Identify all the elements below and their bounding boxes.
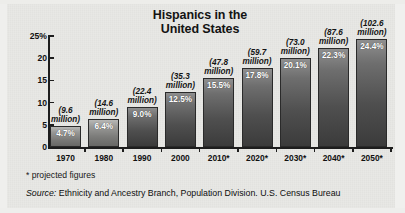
chart-title-line1: Hispanics in the — [153, 8, 247, 22]
x-axis-tick — [122, 148, 124, 152]
bar-1970: 4.7% — [50, 126, 81, 147]
annotation-line: million) — [274, 47, 317, 56]
x-axis-label: 1990 — [121, 153, 164, 163]
bar-1980: 6.4% — [88, 119, 119, 147]
y-axis-label: 5 — [7, 121, 47, 129]
x-axis-label: 2010* — [197, 153, 240, 163]
frame-edge-bottom — [0, 208, 405, 213]
x-axis-tick — [390, 148, 392, 152]
y-axis-label: 20 — [7, 54, 47, 62]
bar-1990: 9.0% — [127, 107, 158, 147]
x-axis-tick — [276, 148, 278, 152]
annotation-line: million) — [159, 81, 202, 90]
annotation-line: million) — [350, 28, 393, 37]
bar-2020: 17.8% — [242, 68, 273, 147]
bar-2010: 15.5% — [203, 78, 234, 147]
frame-edge-right — [395, 0, 405, 213]
annotation-line: (87.6 — [312, 28, 355, 37]
frame-edge-left — [0, 0, 7, 213]
annotation-line: (102.6 — [350, 19, 393, 28]
chart-figure: Hispanics in the United States * project… — [0, 0, 405, 213]
bar-value-label: 22.3% — [319, 51, 348, 60]
annotation-line: million) — [312, 37, 355, 46]
bar-value-label: 4.7% — [51, 129, 80, 138]
annotation-line: (14.6 — [82, 99, 125, 108]
x-axis-label: 2020* — [236, 153, 279, 163]
bar-population-annotation: (9.6million) — [44, 106, 87, 124]
bar-population-annotation: (102.6million) — [350, 19, 393, 37]
y-axis-tick — [48, 35, 54, 37]
x-axis-tick — [84, 148, 86, 152]
annotation-line: (73.0 — [274, 38, 317, 47]
source-text: Ethnicity and Ancestry Branch, Populatio… — [59, 188, 341, 198]
bar-value-label: 24.4% — [357, 42, 386, 51]
x-axis-tick — [161, 148, 163, 152]
bar-value-label: 17.8% — [243, 71, 272, 80]
x-axis-label: 2050* — [350, 153, 393, 163]
bar-2000: 12.5% — [165, 92, 196, 148]
frame-edge-top — [0, 0, 405, 4]
bar-value-label: 15.5% — [204, 81, 233, 90]
bar-population-annotation: (73.0million) — [274, 38, 317, 56]
bar-value-label: 20.1% — [281, 61, 310, 70]
x-axis-line — [48, 147, 393, 149]
y-axis-tick — [48, 80, 54, 82]
y-axis-tick — [48, 57, 54, 59]
x-axis-label: 1970 — [44, 153, 87, 163]
x-axis-tick — [314, 148, 316, 152]
annotation-line: (9.6 — [44, 106, 87, 115]
annotation-line: million) — [82, 108, 125, 117]
annotation-line: (22.4 — [121, 87, 164, 96]
bar-population-annotation: (14.6million) — [82, 99, 125, 117]
y-axis-label: 10 — [7, 99, 47, 107]
bar-value-label: 6.4% — [89, 122, 118, 131]
x-axis-tick — [199, 148, 201, 152]
y-axis-label: 25% — [7, 32, 47, 40]
bar-population-annotation: (87.6million) — [312, 28, 355, 46]
annotation-line: million) — [121, 96, 164, 105]
chart-title: Hispanics in the United States — [105, 9, 295, 36]
x-axis-label: 1980 — [82, 153, 125, 163]
annotation-line: million) — [197, 67, 240, 76]
x-axis-label: 2030* — [274, 153, 317, 163]
bar-2030: 20.1% — [280, 58, 311, 147]
y-axis-label: 0 — [7, 143, 47, 151]
y-axis-label: 15 — [7, 76, 47, 84]
x-axis-tick — [352, 148, 354, 152]
bar-population-annotation: (22.4million) — [121, 87, 164, 105]
bar-population-annotation: (35.3million) — [159, 72, 202, 90]
annotation-line: (59.7 — [236, 48, 279, 57]
chart-title-line2: United States — [105, 23, 295, 37]
x-axis-label: 2040* — [312, 153, 355, 163]
source-label: Source: — [26, 188, 56, 198]
bar-2040: 22.3% — [318, 48, 349, 147]
bar-population-annotation: (59.7million) — [236, 48, 279, 66]
source-note: Source: Ethnicity and Ancestry Branch, P… — [26, 188, 340, 198]
x-axis-label: 2000 — [159, 153, 202, 163]
bar-2050: 24.4% — [356, 39, 387, 147]
x-axis-tick — [237, 148, 239, 152]
y-axis-tick — [48, 102, 54, 104]
annotation-line: million) — [44, 115, 87, 124]
annotation-line: million) — [236, 57, 279, 66]
footnote-projected: * projected figures — [26, 170, 95, 180]
annotation-line: (47.8 — [197, 58, 240, 67]
bar-population-annotation: (47.8million) — [197, 58, 240, 76]
bar-value-label: 12.5% — [166, 95, 195, 104]
bar-value-label: 9.0% — [128, 110, 157, 119]
annotation-line: (35.3 — [159, 72, 202, 81]
